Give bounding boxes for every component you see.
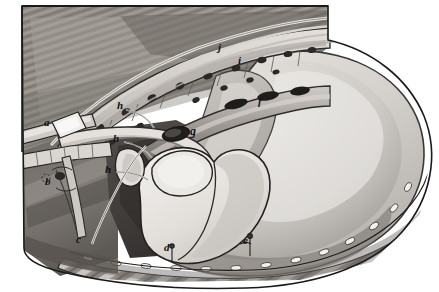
label-d: d [164,242,170,253]
label-c: c [76,234,81,245]
illustration-body [2,6,432,289]
label-a: a [44,117,50,128]
label-b: b [45,176,51,187]
anatomical-illustration: a b c d e f g h h h i j [0,0,439,292]
label-h-lower: h [105,164,111,175]
label-g: g [190,125,196,137]
label-e: e [243,235,248,246]
label-i: i [238,55,241,66]
label-h-middle: h [113,133,119,144]
label-h-upper: h [117,100,123,111]
label-f: f [258,96,262,107]
label-j: j [218,42,221,53]
